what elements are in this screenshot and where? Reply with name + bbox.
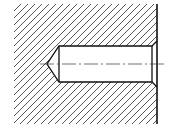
blind-hole-drawing <box>0 0 174 130</box>
